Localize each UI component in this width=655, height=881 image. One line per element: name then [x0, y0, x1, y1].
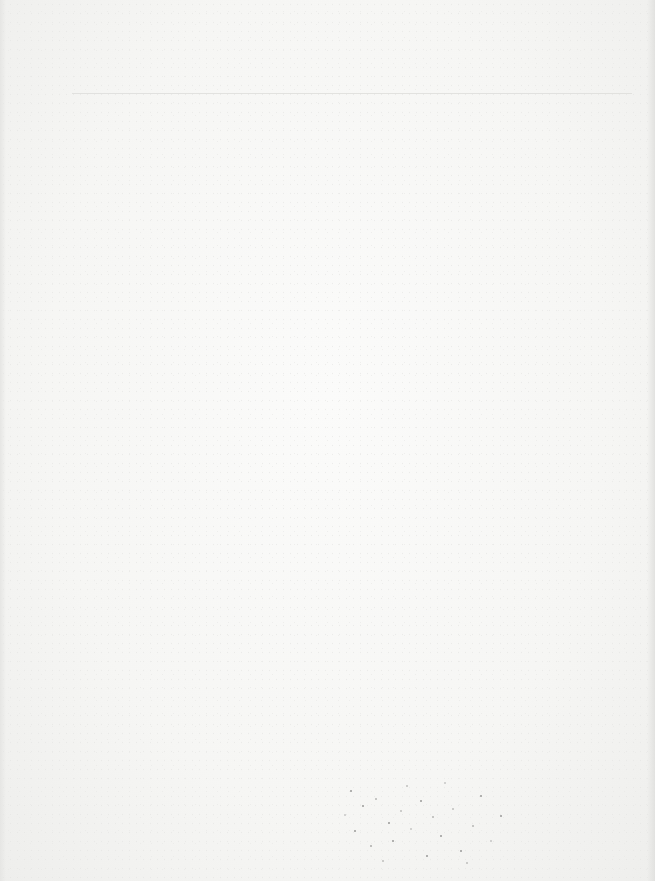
- paper-grain-texture: [0, 0, 655, 881]
- scan-speckle-cluster: [340, 770, 520, 870]
- scanned-page: [0, 0, 655, 881]
- page-edge-left: [0, 0, 6, 881]
- page-edge-right: [647, 0, 655, 881]
- horizontal-rule: [72, 93, 632, 94]
